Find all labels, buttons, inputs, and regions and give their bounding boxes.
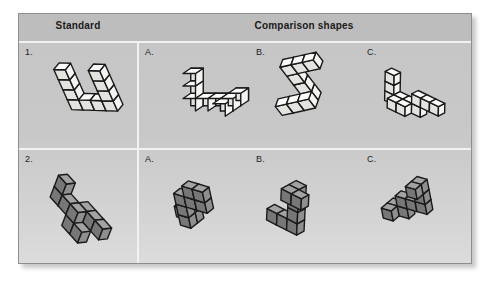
shape-row1-standard (19, 43, 137, 148)
shape-row2-option-a (139, 150, 250, 263)
mental-rotation-figure-panel: Standard Comparison shapes 1. A. B. (18, 13, 472, 264)
comparison-shapes-column-header: Comparison shapes (137, 20, 471, 31)
cell-row1-option-b[interactable]: B. (250, 43, 361, 148)
standard-column-header: Standard (19, 20, 137, 31)
shape-row2-option-c (361, 150, 471, 263)
cell-row2-option-b[interactable]: B. (250, 150, 361, 263)
cell-row1-option-a[interactable]: A. (139, 43, 250, 148)
shape-row1-option-c (361, 43, 471, 148)
cell-row1-standard: 1. (19, 43, 137, 148)
figure-stage: Standard Comparison shapes 1. A. B. (0, 0, 492, 290)
shape-row1-option-b (250, 43, 361, 148)
shape-row2-option-b (250, 150, 361, 263)
cell-row2-standard: 2. (19, 150, 137, 263)
shape-row2-standard (19, 150, 137, 263)
panel-header-band: Standard Comparison shapes (19, 14, 471, 41)
cell-row1-option-c[interactable]: C. (361, 43, 471, 148)
shape-row1-option-a (139, 43, 250, 148)
cell-row2-option-a[interactable]: A. (139, 150, 250, 263)
cell-row2-option-c[interactable]: C. (361, 150, 471, 263)
